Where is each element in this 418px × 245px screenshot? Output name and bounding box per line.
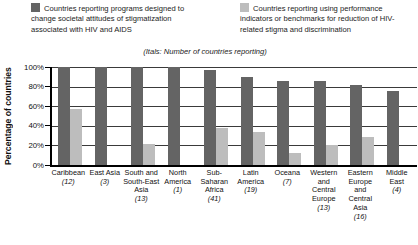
bar-group — [277, 81, 301, 165]
region-name: Western and Central Europe — [306, 169, 343, 204]
legend-item-programs: Countries reporting programs designed to… — [31, 3, 187, 35]
bar-indicators — [70, 109, 82, 165]
bar-programs — [204, 70, 216, 165]
bar-indicators — [143, 144, 155, 165]
x-axis-label: Middle East(4) — [379, 169, 416, 221]
legend-swatch-indicators-icon — [240, 3, 249, 12]
y-tick-label-80: 80% — [16, 82, 44, 91]
y-tick-mark-60 — [45, 106, 50, 107]
legend-item-indicators: Countries reporting using performance in… — [240, 3, 412, 35]
bar-programs — [277, 81, 289, 165]
bar-programs — [241, 77, 253, 165]
region-name: Latin America — [233, 169, 270, 186]
bar-programs — [314, 81, 326, 165]
y-tick-label-40: 40% — [16, 121, 44, 130]
country-count: (16) — [342, 213, 379, 222]
bar-programs — [58, 67, 70, 165]
bar-group — [387, 91, 411, 165]
bar-group — [241, 77, 265, 165]
bar-group — [58, 67, 82, 165]
region-name: North America — [160, 169, 197, 186]
x-axis-label: East Asia(3) — [87, 169, 124, 221]
plot-area — [50, 67, 417, 167]
bar-indicators — [289, 153, 301, 165]
bar-programs — [387, 91, 399, 165]
chart-subtitle: (Itals: Number of countries reporting) — [5, 47, 405, 56]
country-count: (12) — [50, 178, 87, 187]
bar-group — [314, 81, 338, 165]
country-count: (4) — [379, 186, 416, 195]
x-axis-label: South and South-East Asia(13) — [123, 169, 160, 221]
legend-label-indicators: Countries reporting using performance in… — [240, 4, 394, 34]
legend-swatch-programs-icon — [31, 3, 40, 12]
region-name: Eastern Europe and Central Asia — [342, 169, 379, 213]
y-tick-mark-40 — [45, 125, 50, 126]
bar-programs — [95, 67, 107, 165]
bar-group — [95, 67, 119, 165]
x-axis-label: Latin America(19) — [233, 169, 270, 221]
x-axis-label: Eastern Europe and Central Asia(16) — [342, 169, 379, 221]
country-count: (13) — [306, 204, 343, 213]
bar-indicators — [362, 137, 374, 165]
bar-group — [131, 67, 155, 165]
bar-indicators — [326, 145, 338, 165]
y-tick-label-0: 0% — [16, 161, 44, 170]
y-tick-label-20: 20% — [16, 141, 44, 150]
bar-programs — [350, 85, 362, 165]
legend-label-programs: Countries reporting programs designed to… — [31, 4, 184, 34]
y-tick-mark-80 — [45, 86, 50, 87]
bar-group — [168, 67, 192, 165]
region-name: South and South-East Asia — [123, 169, 160, 195]
bar-group — [350, 85, 374, 165]
region-name: Middle East — [379, 169, 416, 186]
x-axis-label: Oceana(7) — [269, 169, 306, 221]
region-name: Sub-Saharan Africa — [196, 169, 233, 195]
figure: Countries reporting programs designed to… — [0, 0, 418, 245]
y-tick-mark-100 — [45, 67, 50, 68]
y-tick-label-100: 100% — [16, 63, 44, 72]
bar-programs — [168, 67, 180, 165]
bar-group — [204, 70, 228, 165]
country-count: (13) — [123, 195, 160, 204]
y-tick-mark-0 — [45, 165, 50, 166]
country-count: (3) — [87, 178, 124, 187]
y-axis-label: Percentage of countries — [1, 55, 14, 177]
bar-indicators — [216, 128, 228, 165]
x-axis-label: Caribbean(12) — [50, 169, 87, 221]
bar-indicators — [253, 132, 265, 165]
country-count: (7) — [269, 178, 306, 187]
country-count: (41) — [196, 195, 233, 204]
x-axis-label: North America(1) — [160, 169, 197, 221]
country-count: (19) — [233, 186, 270, 195]
y-tick-mark-20 — [45, 145, 50, 146]
x-axis-labels: Caribbean(12)East Asia(3)South and South… — [50, 169, 415, 221]
x-axis-label: Sub-Saharan Africa(41) — [196, 169, 233, 221]
country-count: (1) — [160, 186, 197, 195]
bar-programs — [131, 67, 143, 165]
x-axis-label: Western and Central Europe(13) — [306, 169, 343, 221]
y-tick-label-60: 60% — [16, 102, 44, 111]
